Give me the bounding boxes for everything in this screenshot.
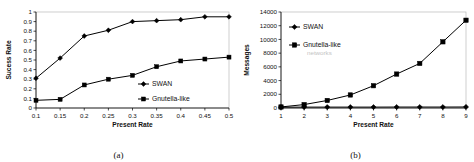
figure-row: 00.10.20.30.40.50.60.70.80.910.10.150.20… bbox=[0, 0, 474, 162]
messages-plot: 0200040006000800010000120001400012345678… bbox=[237, 0, 474, 140]
svg-text:7: 7 bbox=[418, 112, 422, 119]
success-rate-chart: 00.10.20.30.40.50.60.70.80.910.10.150.20… bbox=[0, 0, 237, 140]
svg-text:0.8: 0.8 bbox=[23, 27, 32, 34]
svg-text:0.2: 0.2 bbox=[80, 112, 89, 119]
svg-text:0.4: 0.4 bbox=[23, 66, 32, 73]
panel-b-caption: (b) bbox=[237, 150, 474, 160]
svg-text:0.2: 0.2 bbox=[23, 85, 32, 92]
svg-text:Present Rate: Present Rate bbox=[112, 121, 153, 128]
svg-text:networks: networks bbox=[307, 49, 332, 56]
svg-text:0.7: 0.7 bbox=[23, 37, 32, 44]
svg-text:0: 0 bbox=[29, 104, 33, 111]
svg-text:2000: 2000 bbox=[263, 90, 277, 97]
svg-text:0.5: 0.5 bbox=[225, 112, 234, 119]
svg-text:0.3: 0.3 bbox=[128, 112, 137, 119]
svg-text:Gnutella-like: Gnutella-like bbox=[152, 95, 190, 102]
panel-a-caption: (a) bbox=[0, 150, 237, 160]
success-rate-panel: 00.10.20.30.40.50.60.70.80.910.10.150.20… bbox=[0, 0, 237, 162]
svg-text:6: 6 bbox=[395, 112, 399, 119]
svg-text:3: 3 bbox=[326, 112, 330, 119]
svg-text:Messages: Messages bbox=[243, 44, 251, 76]
svg-text:0.1: 0.1 bbox=[32, 112, 41, 119]
svg-text:4: 4 bbox=[349, 112, 353, 119]
svg-text:SWAN: SWAN bbox=[152, 80, 172, 87]
svg-text:1: 1 bbox=[29, 8, 33, 15]
svg-text:Sucess Rate: Sucess Rate bbox=[5, 40, 12, 80]
svg-text:0.6: 0.6 bbox=[23, 47, 32, 54]
svg-text:8: 8 bbox=[441, 112, 445, 119]
svg-text:SWAN: SWAN bbox=[303, 23, 323, 30]
svg-text:0.3: 0.3 bbox=[23, 75, 32, 82]
svg-text:2: 2 bbox=[302, 112, 306, 119]
svg-text:0.45: 0.45 bbox=[199, 112, 212, 119]
messages-panel: 0200040006000800010000120001400012345678… bbox=[237, 0, 474, 162]
svg-text:0.5: 0.5 bbox=[23, 56, 32, 63]
svg-text:Present Rate: Present Rate bbox=[353, 121, 394, 128]
svg-text:0.25: 0.25 bbox=[102, 112, 115, 119]
svg-text:14000: 14000 bbox=[260, 8, 278, 15]
messages-chart: 0200040006000800010000120001400012345678… bbox=[237, 0, 474, 140]
svg-text:Gnutella-like: Gnutella-like bbox=[303, 41, 341, 48]
svg-text:0.35: 0.35 bbox=[151, 112, 164, 119]
svg-text:12000: 12000 bbox=[260, 22, 278, 29]
svg-text:0.9: 0.9 bbox=[23, 18, 32, 25]
svg-text:0.1: 0.1 bbox=[23, 95, 32, 102]
svg-text:0: 0 bbox=[274, 104, 278, 111]
svg-text:6000: 6000 bbox=[263, 63, 277, 70]
svg-text:5: 5 bbox=[372, 112, 376, 119]
svg-text:4000: 4000 bbox=[263, 77, 277, 84]
success-rate-plot: 00.10.20.30.40.50.60.70.80.910.10.150.20… bbox=[0, 0, 237, 140]
svg-text:1: 1 bbox=[279, 112, 283, 119]
svg-text:0.4: 0.4 bbox=[176, 112, 185, 119]
svg-text:0.15: 0.15 bbox=[54, 112, 67, 119]
svg-text:9: 9 bbox=[464, 112, 468, 119]
svg-text:10000: 10000 bbox=[260, 36, 278, 43]
svg-text:8000: 8000 bbox=[263, 49, 277, 56]
